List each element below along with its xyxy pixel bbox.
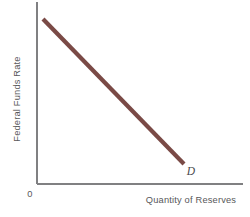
origin-label: 0 — [27, 190, 32, 199]
x-axis-label: Quantity of Reserves — [146, 196, 236, 205]
demand-curve-line — [43, 19, 184, 164]
plot-area — [0, 0, 250, 217]
demand-curve-label: D — [187, 166, 195, 178]
y-axis-label: Federal Funds Rate — [13, 56, 22, 141]
figure-demand-for-reserves: Federal Funds Rate Quantity of Reserves … — [0, 0, 250, 217]
